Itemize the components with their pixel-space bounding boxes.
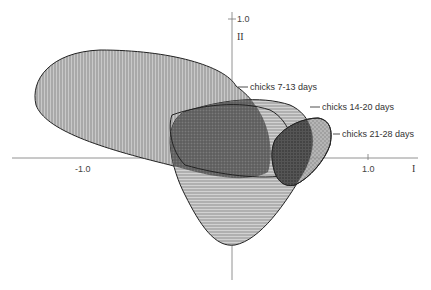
- y-tick-label: 1.0: [237, 14, 250, 24]
- ordination-diagram: chicks 7-13 days chicks 14-20 days chick…: [0, 0, 431, 290]
- x-tick-label-neg: -1.0: [75, 164, 91, 174]
- x-tick-label-pos: 1.0: [362, 164, 375, 174]
- label-chicks-14-20-days: chicks 14-20 days: [322, 102, 395, 112]
- label-chicks-21-28-days: chicks 21-28 days: [342, 129, 415, 139]
- label-chicks-7-13-days: chicks 7-13 days: [250, 82, 318, 92]
- y-axis-label: II: [237, 31, 244, 42]
- x-axis-label: I: [412, 163, 415, 174]
